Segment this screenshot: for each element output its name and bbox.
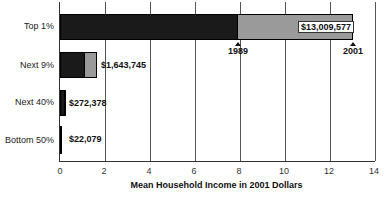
x-axis-label: Mean Household Income in 2001 Dollars [59, 180, 374, 190]
bar-1989 [60, 90, 65, 116]
bar-1989 [60, 52, 85, 78]
x-tick: 8 [236, 166, 241, 176]
bar-1989 [60, 14, 238, 40]
value-label: $22,079 [69, 134, 102, 144]
x-tick: 14 [369, 166, 379, 176]
gridline [375, 2, 376, 161]
plot-area: $13,009,577 1989 2001 $1,643,745 $272,37… [59, 2, 375, 162]
category-label: Bottom 50% [5, 135, 54, 145]
x-tick: 0 [57, 166, 62, 176]
bar-1989 [60, 126, 62, 154]
bar-next-9: $1,643,745 [60, 52, 375, 78]
x-tick: 2 [101, 166, 106, 176]
value-label: $272,378 [69, 98, 107, 108]
x-tick: 4 [146, 166, 151, 176]
x-tick: 12 [324, 166, 334, 176]
bar-bottom-50: $22,079 [60, 126, 375, 154]
x-tick: 10 [279, 166, 289, 176]
value-label: $1,643,745 [101, 60, 146, 70]
category-label: Next 9% [20, 60, 54, 70]
bar-next-40: $272,378 [60, 90, 375, 116]
value-label: $13,009,577 [298, 21, 354, 33]
x-tick: 6 [191, 166, 196, 176]
category-label: Top 1% [24, 21, 54, 31]
category-label: Next 40% [15, 97, 54, 107]
bar-top-1: $13,009,577 [60, 14, 375, 40]
